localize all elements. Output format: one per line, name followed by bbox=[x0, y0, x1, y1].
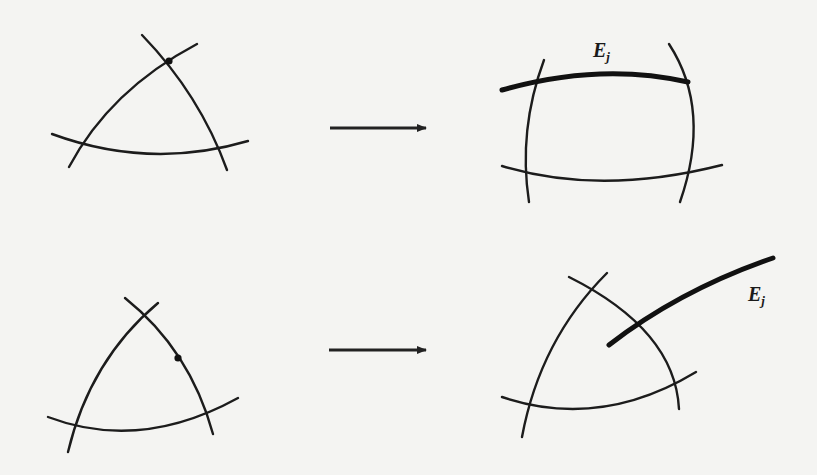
label-subscript: j bbox=[761, 293, 765, 308]
curve-right bbox=[669, 44, 694, 202]
exceptional-label-top: Ej bbox=[593, 40, 610, 63]
marked-point-icon bbox=[165, 57, 172, 64]
top-left-triangle bbox=[52, 35, 248, 170]
bottom-left-triangle bbox=[48, 298, 238, 452]
curve-b bbox=[69, 44, 197, 167]
exceptional-curve-ej bbox=[502, 74, 688, 90]
label-main: E bbox=[593, 39, 606, 61]
bottom-right-blowup bbox=[502, 258, 773, 437]
figure-canvas bbox=[0, 0, 817, 475]
marked-point-icon bbox=[174, 354, 181, 361]
label-subscript: j bbox=[606, 49, 610, 64]
exceptional-label-bottom: Ej bbox=[748, 284, 765, 307]
top-right-blowup bbox=[502, 44, 722, 202]
blowup-figure: Ej Ej bbox=[0, 0, 817, 475]
curve-a bbox=[125, 298, 213, 434]
curve-left bbox=[522, 273, 607, 437]
label-main: E bbox=[748, 283, 761, 305]
